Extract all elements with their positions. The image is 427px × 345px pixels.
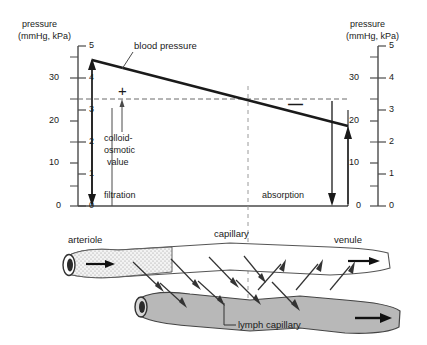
left-kpa-tick-2: 2	[89, 136, 94, 147]
right-axis-header-line1: pressure	[350, 19, 385, 30]
right-mmhg-tick-0: 0	[356, 200, 361, 211]
venule-label: venule	[334, 234, 362, 245]
right-kpa-tick-4: 4	[389, 72, 394, 83]
absorption-region-label: absorption	[262, 190, 304, 201]
left-kpa-tick-3: 3	[89, 104, 94, 115]
left-mmhg-tick-20: 20	[49, 115, 59, 126]
right-mmhg-tick-10: 10	[349, 157, 359, 168]
plus-sign-label: +	[118, 83, 127, 98]
right-axis	[370, 46, 386, 206]
capillary-label: capillary	[214, 228, 249, 239]
left-mmhg-tick-10: 10	[49, 157, 59, 168]
right-kpa-tick-1: 1	[389, 168, 394, 179]
lymph-capillary-label: lymph capillary	[238, 319, 301, 330]
minus-sign-label: —	[288, 98, 303, 109]
left-axis	[70, 46, 86, 206]
filtration-region-label: filtration	[104, 190, 136, 201]
absorption-arrow-right-down	[328, 101, 336, 206]
blood-pressure-line	[92, 60, 348, 126]
colloid-osmotic-label-line2: osmotic	[104, 145, 135, 156]
figure-canvas	[0, 0, 427, 345]
left-mmhg-tick-30: 30	[49, 72, 59, 83]
filtration-arrow-left-down	[88, 108, 96, 206]
right-kpa-tick-2: 2	[389, 136, 394, 147]
left-axis-header-line1: pressure	[22, 19, 57, 30]
right-kpa-tick-5: 5	[389, 40, 394, 51]
arteriole-label: arteriole	[68, 234, 102, 245]
blood-pressure-leader	[122, 52, 133, 69]
left-kpa-tick-4: 4	[89, 72, 94, 83]
left-kpa-tick-0: 0	[89, 200, 94, 211]
left-mmhg-tick-0: 0	[56, 200, 61, 211]
right-mmhg-tick-30: 30	[349, 72, 359, 83]
left-kpa-tick-5: 5	[89, 40, 94, 51]
blood-pressure-label: blood pressure	[134, 40, 197, 51]
right-kpa-tick-3: 3	[389, 104, 394, 115]
colloid-osmotic-label-line1: colloid-	[104, 133, 133, 144]
left-axis-header-line2: (mmHg, kPa)	[18, 31, 71, 42]
capillary-pressure-figure: pressure (mmHg, kPa) pressure (mmHg, kPa…	[0, 0, 427, 345]
right-mmhg-tick-20: 20	[349, 115, 359, 126]
arteriole-capillary-venule	[63, 243, 390, 292]
colloid-osmotic-label-line3: value	[107, 157, 129, 168]
right-kpa-tick-0: 0	[389, 200, 394, 211]
left-kpa-tick-1: 1	[89, 168, 94, 179]
